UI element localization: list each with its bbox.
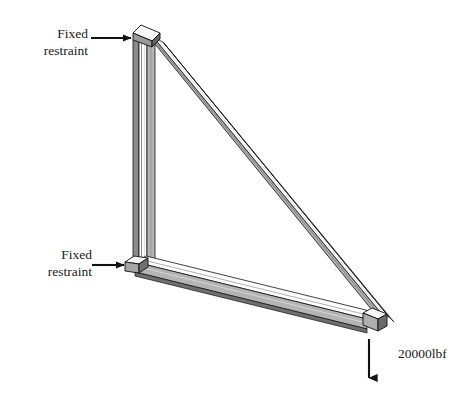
truss-diagram (0, 0, 471, 403)
bottom-chord-edge-line-2 (137, 267, 369, 324)
label-fixed-restraint-bottom: Fixed restraint (14, 247, 92, 281)
label-applied-load: 20000lbf (398, 346, 447, 363)
bottom-chord-front-face (135, 262, 367, 329)
label-fixed-restraint-top-line2: restraint (10, 43, 88, 60)
label-fixed-restraint-top-line1: Fixed (10, 26, 88, 43)
label-fixed-restraint-bottom-line1: Fixed (14, 247, 92, 264)
label-fixed-restraint-top: Fixed restraint (10, 26, 88, 60)
member-vertical-column (133, 34, 155, 272)
label-fixed-restraint-bottom-line2: restraint (14, 264, 92, 281)
figure-canvas: Fixed restraint Fixed restraint 20000lbf (0, 0, 471, 403)
vertical-column-front-face (139, 34, 147, 266)
vertical-column-left-face (133, 34, 139, 270)
joint-bottom-left-cap-front (125, 262, 139, 273)
